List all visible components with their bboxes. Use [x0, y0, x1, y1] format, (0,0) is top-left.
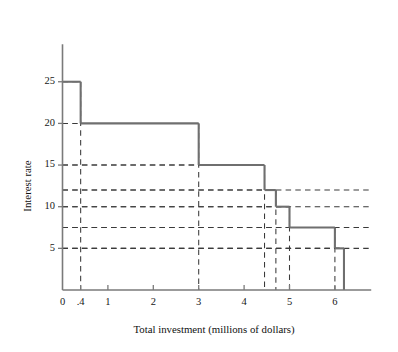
y-tick-label-5: 5	[50, 242, 55, 253]
y-tick-label-10: 10	[45, 200, 56, 211]
step-function-group	[63, 82, 344, 290]
tick-marks-group	[58, 82, 335, 290]
x-tick-label-0: 0	[60, 296, 65, 307]
x-tick-label-2: 2	[151, 296, 156, 307]
x-tick-label-4: 4	[241, 296, 247, 307]
x-axis-title: Total investment (millions of dollars)	[133, 323, 295, 336]
x-tick-label-5: 5	[287, 296, 292, 307]
x-tick-label-1: 1	[105, 296, 110, 307]
y-axis-title: Interest rate	[21, 160, 33, 211]
y-tick-label-25: 25	[45, 75, 56, 86]
step-chart: 5101520250.4123456 Total investment (mil…	[0, 0, 398, 352]
guide-lines-group	[63, 82, 372, 290]
x-tick-label-3: 3	[196, 296, 201, 307]
chart-canvas: 5101520250.4123456 Total investment (mil…	[0, 0, 398, 352]
y-tick-label-15: 15	[45, 158, 56, 169]
tick-labels-group: 5101520250.4123456	[45, 75, 338, 307]
axes-group	[63, 44, 372, 290]
x-tick-label-6: 6	[332, 296, 337, 307]
x-tick-label-.4: .4	[77, 296, 86, 307]
y-tick-label-20: 20	[45, 117, 56, 128]
